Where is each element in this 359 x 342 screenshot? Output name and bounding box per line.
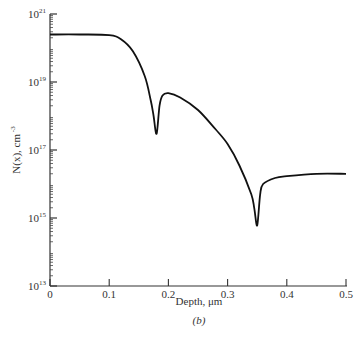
x-tick-label: 0.3 bbox=[221, 288, 235, 300]
figure-caption: (b) bbox=[193, 314, 206, 327]
axes: 10211019101710151013 00.10.20.30.40.5 bbox=[28, 7, 353, 300]
y-tick-label: 1019 bbox=[28, 75, 47, 88]
x-tick-label: 0.1 bbox=[102, 288, 116, 300]
y-tick-label: 1017 bbox=[28, 143, 47, 156]
chart-svg: 10211019101710151013 00.10.20.30.40.5 N(… bbox=[0, 0, 359, 342]
x-axis-title: Depth, μm bbox=[176, 295, 223, 307]
x-tick-label: 0.4 bbox=[280, 288, 294, 300]
y-tick-label: 1013 bbox=[28, 279, 47, 292]
doping-curve bbox=[50, 34, 346, 225]
y-tick-label: 1021 bbox=[28, 7, 47, 20]
x-tick-label: 0.5 bbox=[339, 288, 353, 300]
y-axis-title: N(x), cm -3 bbox=[9, 126, 23, 174]
y-tick-label: 1015 bbox=[28, 211, 47, 224]
x-tick-label: 0.2 bbox=[162, 288, 176, 300]
x-tick-label: 0 bbox=[47, 288, 53, 300]
